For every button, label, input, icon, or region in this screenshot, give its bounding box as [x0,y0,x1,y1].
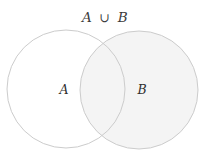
title-left-operand: A [80,9,92,25]
title-right-operand: B [117,9,128,25]
set-a-label: A [58,82,68,97]
venn-diagram-figure: A ∪ B A B [0,0,211,155]
diagram-title: A ∪ B [80,9,128,25]
union-operator-symbol: ∪ [100,10,111,25]
set-b-label: B [136,82,146,97]
venn-diagram-canvas: A ∪ B A B [0,0,211,155]
